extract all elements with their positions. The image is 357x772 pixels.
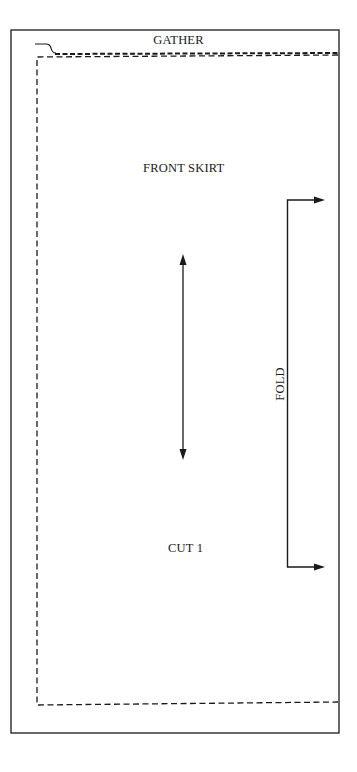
seam-line	[37, 55, 338, 705]
fold-bracket-icon	[288, 197, 326, 571]
pattern-diagram: GATHER FRONT SKIRT CUT 1 FOLD	[0, 0, 357, 772]
gather-line	[55, 53, 338, 54]
grainline-arrow-icon	[180, 254, 187, 460]
gather-label: GATHER	[0, 33, 357, 48]
fold-label: FOLD	[273, 367, 288, 400]
pattern-piece-drawing	[0, 0, 357, 772]
cut-instruction-label: CUT 1	[168, 541, 203, 556]
piece-name-label: FRONT SKIRT	[143, 161, 224, 176]
cutting-line	[11, 30, 339, 733]
